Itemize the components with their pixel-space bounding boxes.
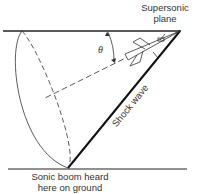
cone-back-edge: [22, 31, 70, 168]
ground-label-line1: Sonic boom heard: [20, 171, 120, 182]
cone-front-edge: [15, 31, 68, 168]
plane-label: Supersonic plane: [135, 2, 195, 24]
arrow-head-bottom: [111, 58, 116, 63]
plane-label-line1: Supersonic: [135, 2, 195, 13]
ground-label-line2: here on ground: [20, 182, 120, 193]
ground-label: Sonic boom heard here on ground: [20, 171, 120, 193]
shock-cone-diagram: [0, 0, 212, 194]
plane-label-line2: plane: [135, 13, 195, 24]
shock-wave-line: [68, 31, 180, 168]
plane-icon: [125, 31, 180, 66]
angle-label: θ: [98, 44, 103, 55]
angle-arc: [108, 32, 114, 62]
